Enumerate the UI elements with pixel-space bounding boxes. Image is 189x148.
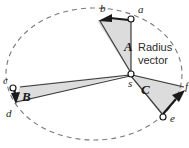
point-marker-c (10, 85, 16, 91)
orbit-path-group (6, 8, 182, 140)
label-sector-A: A (123, 39, 133, 54)
arrow-head-b (98, 14, 112, 22)
label-point-e: e (170, 112, 175, 124)
swept-area-sectors (14, 19, 184, 117)
orbit-point-markers (10, 16, 166, 120)
radius-vector-text-line2: vector (138, 54, 168, 66)
label-point-c: c (3, 74, 8, 86)
orbit-diagram-canvas: a b c d e f s A B C Radius vector (0, 0, 189, 148)
label-focus-s: s (128, 77, 132, 89)
point-marker-e (160, 114, 166, 120)
label-point-a: a (138, 3, 144, 15)
label-point-d: d (6, 107, 12, 119)
label-point-f: f (185, 80, 189, 92)
orbit-ellipse (6, 8, 182, 140)
point-marker-a (128, 16, 134, 22)
label-point-b: b (100, 2, 106, 14)
label-sector-C: C (141, 82, 150, 97)
radius-vector-annotation: Radius vector (138, 41, 173, 66)
label-sector-B: B (21, 89, 31, 104)
radius-vector-text-line1: Radius (138, 41, 173, 53)
kepler-equal-areas-figure: a b c d e f s A B C Radius vector (0, 0, 189, 148)
